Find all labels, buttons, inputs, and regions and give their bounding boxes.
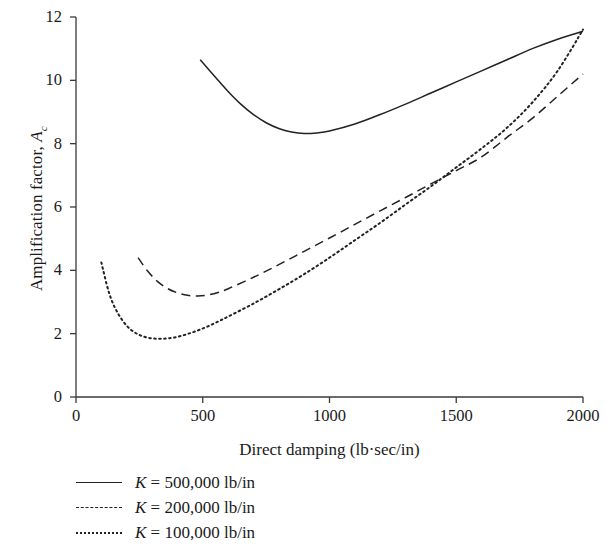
legend-line-dotted-icon bbox=[74, 526, 126, 540]
axes-layer bbox=[70, 17, 583, 403]
chart-legend: K = 500,000 lb/in K = 200,000 lb/in K = … bbox=[74, 470, 404, 545]
y-tick-label: 6 bbox=[28, 199, 62, 216]
x-tick-label: 500 bbox=[173, 408, 233, 425]
y-tick-label: 10 bbox=[28, 72, 62, 89]
plot-area bbox=[0, 0, 615, 548]
x-tick-label: 1500 bbox=[426, 408, 486, 425]
legend-label-k200000: K = 200,000 lb/in bbox=[135, 498, 255, 518]
y-tick-label: 4 bbox=[28, 262, 62, 279]
legend-item-k100000: K = 100,000 lb/in bbox=[74, 520, 404, 545]
series-line-solid bbox=[200, 31, 583, 133]
x-axis-title: Direct damping (lb·sec/in) bbox=[76, 440, 583, 460]
x-tick-label: 2000 bbox=[553, 408, 613, 425]
series-line-dotted bbox=[101, 30, 583, 339]
x-tick-label: 0 bbox=[46, 408, 106, 425]
legend-line-dashed-icon bbox=[74, 501, 126, 515]
y-tick-label: 8 bbox=[28, 136, 62, 153]
series-layer bbox=[101, 30, 583, 339]
y-tick-label: 0 bbox=[28, 389, 62, 406]
y-tick-label: 12 bbox=[28, 9, 62, 26]
legend-label-k100000: K = 100,000 lb/in bbox=[135, 523, 255, 543]
legend-item-k500000: K = 500,000 lb/in bbox=[74, 470, 404, 495]
x-tick-label: 1000 bbox=[300, 408, 360, 425]
amplification-factor-chart: Amplification factor, Ac 024681012 05001… bbox=[0, 0, 615, 548]
legend-label-k500000: K = 500,000 lb/in bbox=[135, 473, 255, 493]
y-tick-label: 2 bbox=[28, 326, 62, 343]
legend-item-k200000: K = 200,000 lb/in bbox=[74, 495, 404, 520]
legend-line-solid-icon bbox=[74, 476, 126, 490]
series-line-dashed bbox=[138, 74, 583, 296]
